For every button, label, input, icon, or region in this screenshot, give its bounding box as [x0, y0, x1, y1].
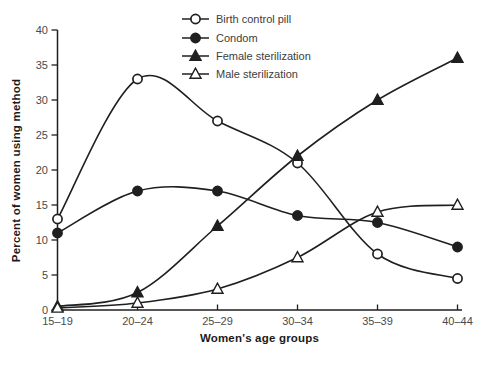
open-circle-marker — [191, 15, 200, 24]
y-tick-label: 5 — [42, 269, 48, 281]
x-tick-label: 15–19 — [42, 315, 73, 327]
x-tick-label: 20–24 — [122, 315, 153, 327]
legend-label: Condom — [216, 32, 258, 44]
x-axis-title: Women's age groups — [57, 332, 462, 344]
open-triangle-marker — [292, 252, 303, 262]
open-circle-marker — [133, 74, 142, 83]
open-triangle-marker — [452, 199, 463, 209]
x-tick-label: 25–29 — [202, 315, 233, 327]
filled-triangle-icon — [182, 49, 209, 63]
legend-item-female-sterilization: Female sterilization — [182, 47, 311, 65]
series-line-birth-control-pill — [58, 75, 458, 278]
y-tick-label: 35 — [36, 59, 48, 71]
y-tick-label: 20 — [36, 164, 48, 176]
filled-triangle-marker — [190, 50, 201, 60]
filled-circle-marker — [53, 228, 62, 237]
filled-circle-marker — [133, 186, 142, 195]
series-markers-male-sterilization — [52, 199, 463, 312]
legend-item-male-sterilization: Male sterilization — [182, 65, 311, 83]
series-markers-condom — [53, 186, 462, 251]
x-tick-label: 40–44 — [442, 315, 473, 327]
legend-item-birth-control-pill: Birth control pill — [182, 10, 311, 28]
y-tick-label: 40 — [36, 24, 48, 36]
y-tick-label: 30 — [36, 94, 48, 106]
filled-circle-marker — [293, 211, 302, 220]
open-triangle-marker — [190, 69, 201, 79]
legend-item-condom: Condom — [182, 28, 311, 46]
filled-triangle-marker — [132, 287, 143, 297]
y-axis-title: Percent of women using method — [10, 31, 25, 311]
series-markers-female-sterilization — [52, 52, 463, 311]
filled-triangle-marker — [372, 94, 383, 104]
legend-label: Male sterilization — [216, 68, 298, 80]
legend-label: Female sterilization — [216, 50, 311, 62]
open-circle-marker — [213, 116, 222, 125]
filled-circle-icon — [182, 31, 209, 45]
open-triangle-icon — [182, 67, 209, 81]
chart-figure: 051015202530354015–1920–2425–2930–3435–3… — [0, 0, 481, 370]
filled-circle-marker — [373, 218, 382, 227]
filled-circle-marker — [213, 186, 222, 195]
y-tick-label: 15 — [36, 199, 48, 211]
legend: Birth control pillCondomFemale steriliza… — [182, 10, 311, 84]
filled-circle-marker — [453, 242, 462, 251]
legend-label: Birth control pill — [216, 13, 291, 25]
filled-triangle-marker — [292, 150, 303, 160]
x-tick-label: 35–39 — [362, 315, 393, 327]
x-tick-label: 30–34 — [282, 315, 313, 327]
open-circle-marker — [53, 214, 62, 223]
open-circle-marker — [453, 274, 462, 283]
filled-triangle-marker — [452, 52, 463, 62]
filled-circle-marker — [191, 33, 200, 42]
y-tick-label: 25 — [36, 129, 48, 141]
open-circle-marker — [373, 249, 382, 258]
series-line-condom — [58, 187, 458, 247]
y-tick-label: 10 — [36, 234, 48, 246]
open-circle-icon — [182, 12, 209, 26]
series-line-male-sterilization — [58, 205, 458, 308]
series-line-female-sterilization — [58, 58, 458, 307]
